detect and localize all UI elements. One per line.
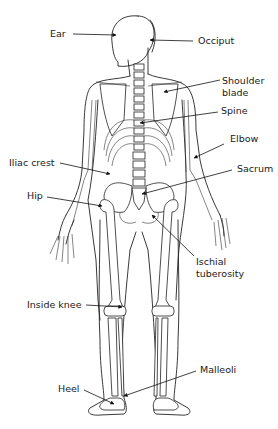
label-ischial-line1: Ischial [196, 256, 244, 268]
label-ischial-line2: tuberosity [196, 268, 244, 280]
label-iliac-crest: Iliac crest [9, 157, 55, 169]
leader-ear [73, 34, 116, 35]
label-occiput: Occiput [198, 35, 234, 47]
leader-iliac-crest [60, 163, 110, 174]
leader-spine [140, 112, 218, 123]
label-shoulder-blade: Shoulder blade [222, 75, 264, 99]
label-hip: Hip [27, 190, 43, 202]
leader-ischial-tuberosity [152, 215, 194, 256]
skeleton-diagram [0, 0, 278, 429]
label-shoulder-blade-line2: blade [222, 87, 264, 99]
leader-sacrum [142, 170, 232, 194]
label-ear: Ear [50, 28, 66, 40]
label-malleoli: Malleoli [200, 364, 236, 376]
lower-legs [100, 306, 179, 410]
label-ischial-tuberosity: Ischial tuberosity [196, 256, 244, 280]
leader-heel [84, 390, 114, 404]
label-sacrum: Sacrum [237, 163, 273, 175]
label-heel: Heel [58, 383, 79, 395]
label-spine: Spine [221, 105, 248, 117]
label-elbow: Elbow [230, 133, 258, 145]
leader-occiput [150, 40, 193, 41]
femurs [100, 200, 178, 310]
label-inside-knee: Inside knee [27, 299, 82, 311]
label-shoulder-blade-line1: Shoulder [222, 75, 264, 87]
spine-column [133, 64, 145, 186]
